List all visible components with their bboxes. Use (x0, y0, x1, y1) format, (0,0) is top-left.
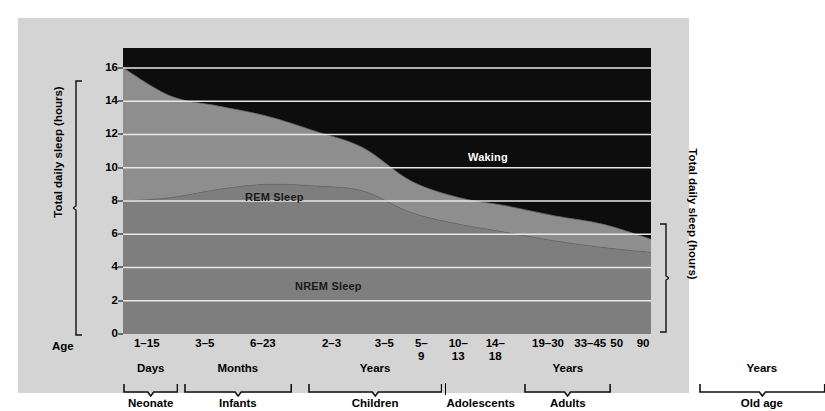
y-tick-label: 8 (96, 195, 118, 207)
x-tick-label: 14– 18 (469, 337, 521, 363)
group-unit-label: Years (330, 362, 420, 374)
group-unit-label: Years (523, 362, 613, 374)
y-tick-mark (118, 234, 123, 235)
group-bracket (123, 383, 178, 396)
y-tick-mark (118, 101, 123, 102)
x-tick-label: 90 (617, 337, 669, 350)
y-axis-title-left: Total daily sleep (hours) (52, 57, 64, 247)
y-axis-title-right: Total daily sleep (hours) (687, 119, 699, 309)
x-tick-label: 3–5 (179, 337, 231, 350)
group-name-label: Children (315, 397, 435, 409)
y-axis-bracket-right (659, 223, 669, 333)
y-tick-label: 16 (96, 62, 118, 74)
y-tick-mark (118, 134, 123, 135)
y-tick-label: 14 (96, 95, 118, 107)
group-bracket (308, 383, 443, 396)
y-axis-left: 0246810121416 (78, 18, 118, 411)
group-name-label: Old age (702, 397, 822, 409)
y-axis-bracket-left (73, 80, 83, 336)
group-divider-tick (445, 383, 446, 395)
y-tick-mark (118, 67, 123, 68)
group-unit-label: Years (717, 362, 807, 374)
y-tick-label: 2 (96, 295, 118, 307)
stacked-area-svg (123, 48, 651, 334)
y-tick-mark (118, 200, 123, 201)
y-tick-mark (118, 267, 123, 268)
x-tick-label: 2–3 (306, 337, 358, 350)
y-tick-label: 12 (96, 129, 118, 141)
y-tick-mark (118, 334, 123, 335)
chart-panel: Waking REM Sleep NREM Sleep 024681012141… (18, 18, 689, 393)
y-tick-label: 0 (96, 328, 118, 340)
series-label-nrem-sleep: NREM Sleep (295, 280, 362, 292)
series-label-rem-sleep: REM Sleep (245, 191, 304, 203)
group-bracket (699, 383, 825, 396)
group-name-label: Infants (178, 397, 298, 409)
group-name-label: Adults (508, 397, 628, 409)
y-tick-mark (118, 167, 123, 168)
group-bracket (524, 383, 611, 396)
plot-area: Waking REM Sleep NREM Sleep (123, 48, 651, 334)
x-axis-title: Age (52, 340, 74, 352)
y-tick-label: 10 (96, 162, 118, 174)
y-tick-label: 6 (96, 228, 118, 240)
group-unit-label: Months (193, 362, 283, 374)
x-tick-label: 6–23 (237, 337, 289, 350)
y-tick-label: 4 (96, 262, 118, 274)
series-label-waking: Waking (468, 151, 508, 163)
group-unit-label: Days (106, 362, 196, 374)
group-bracket (184, 383, 292, 396)
x-tick-label: 1–15 (121, 337, 173, 350)
y-tick-mark (118, 300, 123, 301)
